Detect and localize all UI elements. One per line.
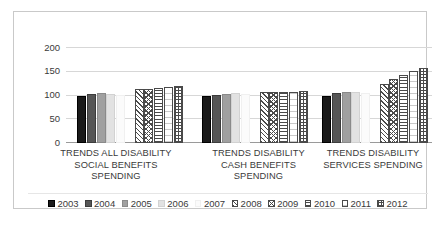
bar-2003-group3[interactable] [322, 96, 331, 144]
legend-label-2005: 2005 [131, 198, 152, 209]
bar-2005-group1[interactable] [97, 93, 106, 143]
category-label-line: SPENDING [41, 171, 191, 183]
legend-swatch-2005 [122, 200, 129, 207]
chart-frame: 050100150200 TRENDS ALL DISABILITYSOCIAL… [13, 11, 427, 209]
legend-item-2010[interactable]: 2010 [305, 198, 335, 209]
legend-item-2006[interactable]: 2006 [158, 198, 188, 209]
legend-label-2009: 2009 [277, 198, 298, 209]
bar-2006-group2[interactable] [231, 93, 240, 143]
legend-item-2012[interactable]: 2012 [377, 198, 407, 209]
category-label-line: TRENDS DISABILITY [192, 148, 325, 160]
category-label-2: TRENDS DISABILITYCASH BENEFITSSPENDING [192, 148, 325, 183]
category-label-line: SERVICES SPENDING [310, 160, 436, 172]
legend-label-2003: 2003 [57, 198, 78, 209]
y-tick-label-100: 100 [44, 90, 60, 100]
legend-swatch-2007 [195, 200, 202, 207]
y-tick-label-0: 0 [55, 138, 60, 148]
legend-label-2011: 2011 [351, 198, 371, 209]
legend-divider [28, 193, 428, 194]
bar-group-3 [322, 48, 429, 143]
bar-2012-group3[interactable] [419, 68, 428, 143]
bar-2008-group3[interactable] [380, 84, 389, 143]
bar-2006-group3[interactable] [351, 92, 360, 143]
bar-2007-group3[interactable] [361, 93, 370, 143]
bar-2007-group2[interactable] [241, 94, 250, 143]
bar-2011-group1[interactable] [164, 87, 173, 143]
legend-label-2006: 2006 [167, 198, 188, 209]
bar-2007-group1[interactable] [116, 95, 125, 143]
category-label-1: TRENDS ALL DISABILITYSOCIAL BENEFITSSPEN… [41, 148, 191, 183]
bar-2003-group1[interactable] [77, 96, 86, 144]
legend-swatch-2012 [377, 200, 384, 207]
bar-2005-group3[interactable] [342, 92, 351, 143]
bar-2008-group1[interactable] [135, 89, 144, 143]
bar-2010-group2[interactable] [279, 92, 288, 143]
legend-swatch-2008 [232, 200, 239, 207]
legend-swatch-2010 [305, 200, 312, 207]
y-tick-label-50: 50 [49, 114, 60, 124]
category-label-3: TRENDS DISABILITYSERVICES SPENDING [310, 148, 436, 171]
category-label-line: CASH BENEFITS [192, 160, 325, 172]
legend-item-2009[interactable]: 2009 [268, 198, 298, 209]
bar-group-2 [202, 48, 309, 143]
legend-swatch-2003 [48, 200, 55, 207]
bar-2011-group2[interactable] [289, 92, 298, 143]
bar-2003-group2[interactable] [202, 96, 211, 144]
bar-2004-group2[interactable] [212, 95, 221, 143]
legend-label-2007: 2007 [204, 198, 225, 209]
chart-legend: 2003200420052006200720082009201020112012 [28, 198, 428, 209]
y-tick-label-150: 150 [44, 67, 60, 77]
bar-series-container [66, 48, 432, 143]
category-label-line: SPENDING [192, 171, 325, 183]
legend-item-2005[interactable]: 2005 [122, 198, 152, 209]
bar-2005-group2[interactable] [222, 94, 231, 143]
bar-2004-group1[interactable] [87, 94, 96, 143]
legend-item-2007[interactable]: 2007 [195, 198, 225, 209]
bar-2006-group1[interactable] [106, 94, 115, 143]
legend-swatch-2009 [268, 200, 275, 207]
legend-label-2010: 2010 [314, 198, 335, 209]
bar-2009-group1[interactable] [144, 89, 153, 143]
bar-2011-group3[interactable] [409, 71, 418, 143]
bar-2010-group3[interactable] [399, 75, 408, 143]
bar-2009-group3[interactable] [389, 79, 398, 143]
legend-label-2012: 2012 [386, 198, 407, 209]
legend-swatch-2004 [85, 200, 92, 207]
plot-area: 050100150200 [66, 48, 432, 143]
bar-2004-group3[interactable] [332, 93, 341, 143]
legend-item-2008[interactable]: 2008 [232, 198, 262, 209]
category-label-line: SOCIAL BENEFITS [41, 160, 191, 172]
legend-label-2008: 2008 [241, 198, 262, 209]
chart-screenshot: 050100150200 TRENDS ALL DISABILITYSOCIAL… [0, 0, 440, 225]
bar-group-1 [77, 48, 184, 143]
legend-item-2004[interactable]: 2004 [85, 198, 115, 209]
category-label-line: TRENDS ALL DISABILITY [41, 148, 191, 160]
legend-item-2003[interactable]: 2003 [48, 198, 78, 209]
legend-item-2011[interactable]: 2011 [342, 198, 371, 209]
bar-2009-group2[interactable] [269, 92, 278, 143]
legend-swatch-2011 [342, 200, 349, 207]
bar-2012-group1[interactable] [174, 86, 183, 143]
legend-label-2004: 2004 [94, 198, 115, 209]
y-tick-label-200: 200 [44, 43, 60, 53]
category-label-line: TRENDS DISABILITY [310, 148, 436, 160]
bar-2012-group2[interactable] [299, 91, 308, 143]
legend-swatch-2006 [158, 200, 165, 207]
bar-2010-group1[interactable] [154, 88, 163, 143]
bar-2008-group2[interactable] [260, 92, 269, 143]
